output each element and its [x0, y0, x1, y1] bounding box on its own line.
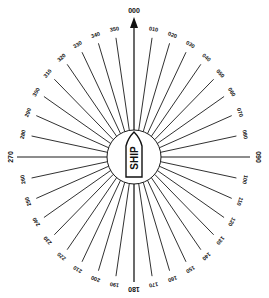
- bearing-label: 190: [109, 281, 119, 289]
- bearing-spoke: [116, 184, 129, 277]
- bearing-label: 210: [72, 265, 83, 275]
- bearing-label: 140: [201, 251, 212, 262]
- bearing-label: 130: [215, 235, 226, 246]
- bearing-label: 330: [72, 40, 83, 50]
- bearing-spoke: [159, 166, 231, 198]
- bearing-spoke: [32, 162, 108, 178]
- cardinal-label: 180: [128, 286, 140, 293]
- bearing-label: 010: [149, 25, 159, 33]
- bearing-spoke: [139, 38, 152, 131]
- bearing-label: 310: [42, 68, 53, 79]
- bearing-spoke: [148, 52, 187, 133]
- bearing-label: 230: [42, 235, 53, 246]
- bearing-spoke: [36, 116, 108, 148]
- bearing-label: 080: [242, 129, 250, 139]
- cardinal-label: 270: [7, 151, 14, 163]
- bearing-spoke: [143, 43, 169, 131]
- bearing-label: 110: [236, 196, 245, 206]
- bearing-spoke: [36, 166, 108, 198]
- bearing-spoke: [116, 38, 129, 131]
- bearing-label: 040: [201, 52, 212, 63]
- bearing-spoke: [98, 43, 124, 131]
- bearing-spoke: [161, 162, 237, 178]
- bearing-spoke: [32, 136, 108, 152]
- bearing-spoke: [159, 116, 231, 148]
- bearing-label: 290: [23, 107, 32, 118]
- bearing-label: 150: [185, 265, 196, 275]
- ship-label: SHIP: [129, 146, 140, 170]
- bearing-label: 340: [90, 30, 101, 39]
- bearing-spoke: [143, 182, 169, 270]
- bearing-spoke: [82, 180, 121, 261]
- bearing-spoke: [44, 171, 111, 218]
- bearing-label: 170: [149, 281, 159, 289]
- bearing-label: 120: [227, 217, 237, 228]
- bearing-spoke: [157, 171, 224, 218]
- cardinal-label: 000: [128, 7, 140, 14]
- bearing-spoke: [139, 184, 152, 277]
- bearing-label: 260: [19, 175, 27, 185]
- bearing-label: 030: [185, 40, 196, 50]
- bearing-label: 320: [56, 52, 67, 63]
- bearing-label: 350: [109, 25, 119, 33]
- bearing-label: 100: [242, 175, 250, 185]
- bearing-label: 060: [227, 87, 237, 98]
- bearing-spoke: [148, 180, 187, 261]
- bearing-label: 200: [90, 275, 101, 284]
- bearing-spoke: [82, 52, 121, 133]
- bearing-label: 280: [19, 129, 27, 139]
- bearing-label: 070: [236, 107, 245, 118]
- bearing-spoke: [157, 97, 224, 144]
- ship-icon: SHIP: [126, 132, 142, 177]
- bearing-label: 250: [23, 196, 32, 207]
- bearing-label: 020: [167, 30, 178, 39]
- cardinal-label: 090: [255, 151, 262, 163]
- bearing-diagram: 0100200300400500600700801001101201301401…: [0, 0, 269, 298]
- bearing-spoke: [98, 182, 124, 270]
- bearing-label: 160: [167, 275, 178, 284]
- bearing-spoke: [44, 97, 111, 144]
- bearing-label: 240: [31, 217, 41, 228]
- bearing-label: 220: [56, 251, 67, 262]
- bearing-label: 050: [215, 68, 226, 79]
- bearing-spoke: [161, 136, 237, 152]
- bearing-label: 300: [31, 87, 41, 98]
